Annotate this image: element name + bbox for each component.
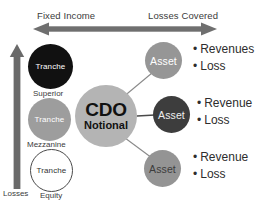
connector-lines (0, 0, 275, 204)
asset-circle-2[interactable]: Asset (153, 96, 190, 133)
cdo-notional-circle[interactable]: CDO Notional (75, 85, 137, 147)
asset-circle-3[interactable]: Asset (144, 150, 181, 187)
cdo-tranche-diagram: Fixed Income Losses Covered Tranche Supe… (0, 0, 275, 204)
cdo-subtitle: Notional (84, 119, 128, 132)
cdo-title: CDO (85, 100, 127, 119)
asset-label-3: Asset (149, 163, 176, 175)
asset-label-2: Asset (158, 109, 185, 121)
asset-circle-1[interactable]: Asset (145, 42, 182, 79)
asset-label-1: Asset (150, 55, 177, 67)
